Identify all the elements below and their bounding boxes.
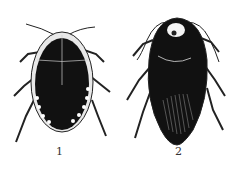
figure-1: 1 <box>0 0 119 170</box>
figure-2: 2 <box>119 0 238 170</box>
figure-label: 2 <box>119 145 238 158</box>
figure-label: 1 <box>0 145 119 158</box>
